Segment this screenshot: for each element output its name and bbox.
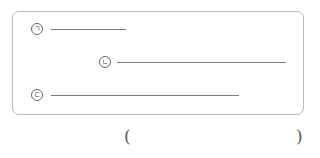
segment-digeut: ㄷ — [31, 89, 240, 103]
line-segment-digeut — [51, 95, 239, 97]
segment-nieun: ㄴ — [99, 56, 287, 70]
answer-open-paren: ( — [124, 128, 131, 145]
answer-close-paren: ) — [296, 128, 303, 145]
line-segment-giyeok — [51, 29, 126, 31]
line-segment-nieun — [117, 62, 286, 64]
circled-giyeok-icon: ㄱ — [31, 23, 43, 35]
circled-nieun-icon: ㄴ — [99, 56, 111, 68]
circled-digeut-icon: ㄷ — [31, 89, 43, 101]
segment-giyeok: ㄱ — [31, 23, 127, 37]
answer-blank[interactable] — [136, 130, 294, 148]
